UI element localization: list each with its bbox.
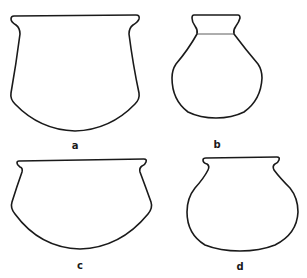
vessel-a-outline [11, 15, 139, 131]
vessel-d-label: d [236, 262, 243, 272]
vessel-drawings [0, 0, 307, 278]
vessel-c-label: c [77, 261, 83, 271]
vessel-c-outline [11, 159, 151, 249]
vessel-b-outline [172, 15, 262, 118]
vessel-b-label: b [213, 140, 220, 150]
pottery-figure: a b c d [0, 0, 307, 278]
vessel-d-outline [187, 157, 298, 251]
vessel-a-label: a [72, 141, 79, 151]
